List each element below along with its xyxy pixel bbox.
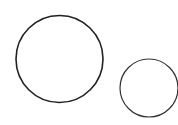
small-circle [120, 59, 178, 117]
diagram-canvas [0, 0, 178, 125]
large-circle [16, 16, 103, 103]
